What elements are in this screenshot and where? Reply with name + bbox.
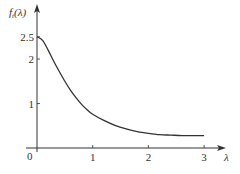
x-tick-label: 1 (90, 151, 96, 163)
y-label-arg: (λ) (14, 6, 26, 19)
curve (37, 37, 204, 136)
x-tick-label: 2 (146, 151, 152, 163)
y-tick-label: 2.5 (20, 31, 34, 43)
y-tick-label: 2 (29, 53, 35, 65)
x-tick-label: 3 (201, 151, 207, 163)
x-axis-label: λ (223, 151, 229, 163)
chart: 123 122.5 0 λ ft(λ) (0, 0, 240, 174)
y-tick-label: 1 (29, 98, 35, 110)
y-axis-label: ft(λ) (9, 6, 26, 20)
origin-label: 0 (27, 150, 33, 162)
